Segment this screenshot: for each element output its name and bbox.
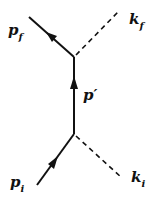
propagator-arrow-icon bbox=[70, 76, 78, 89]
incoming-photon-line bbox=[76, 136, 122, 178]
label-p-f: pf bbox=[8, 21, 25, 42]
label-p-i: pi bbox=[10, 173, 25, 194]
label-k-f: kf bbox=[129, 10, 145, 31]
label-p-prime: p′ bbox=[83, 86, 97, 104]
outgoing-photon-line bbox=[76, 12, 118, 55]
label-k-i: ki bbox=[131, 168, 145, 189]
feynman-diagram: pf kf p′ pi ki bbox=[0, 0, 152, 203]
